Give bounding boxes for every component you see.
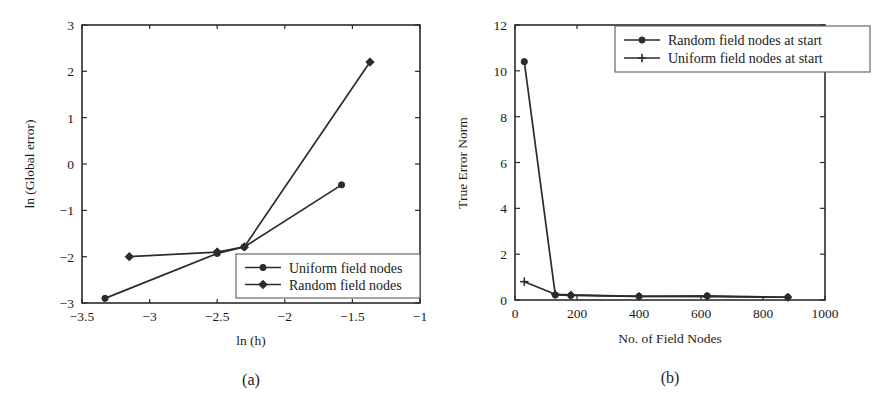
series-line: [129, 62, 370, 257]
data-point-marker: [338, 182, 344, 188]
chart-b-caption: (b): [661, 369, 680, 387]
chart-a-svg: −3.5−3−2.5−2−1.5−1 −3−2−10123 Uniform fi…: [0, 0, 450, 405]
x-tick-label: −2.5: [205, 309, 230, 324]
y-tick-label: 6: [500, 156, 507, 171]
data-point-marker: [102, 295, 108, 301]
data-point-marker: [125, 252, 133, 260]
data-point-marker: [567, 291, 575, 299]
legend-sample-marker: [260, 264, 266, 270]
chart-b-svg: 02004006008001000 024681012 Random field…: [440, 0, 891, 405]
x-tick-label: −2: [278, 309, 292, 324]
chart-b-legend: Random field nodes at startUniform field…: [615, 26, 870, 72]
x-tick-label: 0: [512, 306, 519, 321]
x-tick-label: −3.5: [70, 309, 95, 324]
y-tick-label: 2: [500, 247, 507, 262]
y-tick-label: 0: [500, 293, 507, 308]
data-point-marker: [520, 277, 528, 285]
data-point-marker: [551, 290, 559, 298]
series-line: [524, 62, 788, 298]
x-tick-label: −3: [142, 309, 157, 324]
legend-entry-label: Uniform field nodes at start: [668, 51, 823, 66]
chart-a-caption: (a): [242, 371, 260, 389]
x-tick-label: −1.5: [340, 309, 365, 324]
x-tick-label: 400: [629, 306, 650, 321]
chart-panel-b: 02004006008001000 024681012 Random field…: [440, 0, 891, 405]
legend-entry-label: Random field nodes at start: [668, 33, 822, 48]
chart-a-x-axis-label: ln (h): [236, 333, 266, 348]
y-tick-label: 8: [500, 110, 507, 125]
y-tick-label: 0: [67, 157, 74, 172]
x-tick-label: 1000: [812, 306, 839, 321]
y-tick-label: 12: [494, 18, 508, 33]
legend-entry-label: Uniform field nodes: [289, 261, 403, 276]
y-tick-label: −1: [60, 203, 74, 218]
x-tick-label: 800: [753, 306, 774, 321]
chart-b-series-group: [520, 59, 792, 302]
figure-container: −3.5−3−2.5−2−1.5−1 −3−2−10123 Uniform fi…: [0, 0, 891, 405]
x-tick-label: 600: [691, 306, 712, 321]
data-point-marker: [521, 59, 527, 65]
chart-b-y-axis-label: True Error Norm: [455, 117, 470, 209]
y-tick-label: −2: [60, 250, 74, 265]
legend-sample-marker: [639, 37, 645, 43]
x-tick-label: −1: [413, 309, 427, 324]
y-tick-label: 3: [67, 18, 74, 33]
chart-b-x-axis-label: No. of Field Nodes: [618, 331, 722, 346]
series-line: [524, 282, 788, 298]
y-tick-label: 10: [494, 64, 508, 79]
y-tick-label: 4: [500, 201, 507, 216]
y-tick-label: 1: [67, 111, 74, 126]
y-tick-label: −3: [60, 296, 75, 311]
chart-a-y-axis-label: ln (Global error): [22, 119, 37, 208]
chart-a-legend: Uniform field nodesRandom field nodes: [236, 254, 420, 298]
legend-entry-label: Random field nodes: [289, 278, 402, 293]
x-tick-label: 200: [567, 306, 588, 321]
y-tick-label: 2: [67, 64, 74, 79]
chart-panel-a: −3.5−3−2.5−2−1.5−1 −3−2−10123 Uniform fi…: [0, 0, 450, 405]
